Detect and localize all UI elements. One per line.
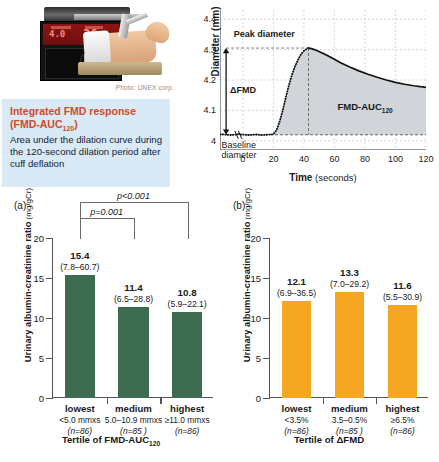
- annotation-peak-diameter: Peak diameter: [234, 29, 295, 39]
- bar-value-label: 15.4: [70, 250, 89, 261]
- y-tick-mark: [263, 238, 270, 239]
- figure-root: 4.036 Photo: UNEX corp. Integrated FMD r…: [0, 0, 439, 462]
- panel-b-ylabel-unit: (mg/gCr): [243, 188, 252, 222]
- bar: 11.4(6.5–28.8): [118, 307, 148, 398]
- significance-label: p=0.001: [90, 207, 123, 217]
- auc-label-pre: FMD-AUC: [337, 101, 381, 112]
- y-tick-mark: [263, 358, 270, 359]
- y-tick-label: 10: [33, 313, 44, 324]
- bar: 13.3(7.0–29.2): [335, 292, 365, 398]
- y-tick-label: 0: [39, 393, 44, 404]
- category-range: ≥6.5%: [365, 415, 439, 425]
- bar-value-label: 13.3: [340, 267, 359, 278]
- panel-a-plot-area: 0510152015.4(7.8–60.7)lowest<5.0 mmxs(n=…: [52, 238, 213, 398]
- significance-label: p<0.001: [117, 191, 150, 201]
- panel-a-y-axis-label: Urinary albumin-creatinine ratio (mg/gCr…: [23, 185, 33, 365]
- bar-ci-label: (6.9–36.5): [277, 288, 316, 298]
- info-title-sub: 120: [63, 125, 75, 132]
- line-chart-y-axis-label: Diameter (mm): [210, 0, 221, 87]
- panel-b-plot-area: 0510152012.1(6.9–36.5)lowest<3.5%(n=86)1…: [269, 238, 428, 398]
- bar-ci-label: (5.9–22.1): [168, 299, 207, 309]
- line-chart-y-tick: 4.2: [203, 75, 216, 85]
- info-title-line2-post: ): [74, 118, 78, 130]
- bar: 12.1(6.9–36.5): [282, 301, 312, 398]
- line-chart-x-tick: 80: [360, 154, 370, 164]
- y-tick-mark: [46, 358, 53, 359]
- panel-a-xtitle-pre: Tertile of FMD-AUC: [62, 434, 149, 445]
- y-tick-mark: [46, 238, 53, 239]
- y-tick-label: 5: [256, 353, 261, 364]
- x-category-label: highest≥11.0 mmxs(n=86): [149, 403, 225, 436]
- info-title-line1: Integrated FMD response: [10, 105, 136, 117]
- panel-a-ylabel-unit: (mg/gCr): [24, 188, 33, 222]
- line-chart-y-tick: 4.1: [203, 105, 216, 115]
- annotation-baseline-diameter: Baseline diameter: [222, 140, 257, 160]
- baseline-line1: Baseline: [222, 140, 257, 150]
- bar-ci-label: (7.8–60.7): [60, 262, 99, 272]
- y-tick-label: 5: [39, 353, 44, 364]
- bar-value-label: 10.8: [178, 287, 197, 298]
- panel-b-x-axis-title: Tertile of ΔFMD: [219, 434, 439, 445]
- significance-bracket: [80, 218, 136, 239]
- panel-a-x-axis-title: Tertile of FMD-AUC120: [0, 434, 222, 447]
- fmd-response-line-chart: Diameter (mm) 44.14.24.34.40204060801001…: [176, 2, 438, 194]
- arm-rest-icon: [78, 62, 162, 75]
- baseline-line2: diameter: [222, 150, 257, 160]
- y-tick-label: 15: [33, 273, 44, 284]
- device-photo: 4.036 Photo: UNEX corp.: [22, 4, 174, 96]
- line-chart-x-tick: 40: [299, 154, 309, 164]
- info-box-body: Area under the dilation curve during the…: [10, 134, 166, 171]
- line-chart-x-tick: 60: [329, 154, 339, 164]
- bar-value-label: 11.6: [393, 280, 412, 291]
- y-tick-mark: [46, 398, 53, 399]
- category-name: highest: [365, 403, 439, 414]
- y-tick-label: 10: [250, 313, 261, 324]
- bar: 15.4(7.8–60.7): [65, 275, 95, 398]
- y-tick-label: 20: [250, 233, 261, 244]
- bar-ci-label: (6.5–28.8): [114, 294, 153, 304]
- bar-ci-label: (5.5–30.9): [383, 292, 422, 302]
- y-tick-label: 15: [250, 273, 261, 284]
- line-chart-y-tick: 4.3: [203, 45, 216, 55]
- category-range: ≥11.0 mmxs: [149, 415, 225, 425]
- line-chart-x-tick: 100: [388, 154, 403, 164]
- y-tick-mark: [46, 278, 53, 279]
- x-axis-label-rest: (seconds): [312, 172, 356, 183]
- annotation-delta-fmd: ΔFMD: [230, 85, 256, 95]
- bar: 10.8(5.9–22.1): [172, 312, 202, 398]
- info-title-line2-pre: (FMD-AUC: [10, 118, 63, 130]
- y-tick-mark: [263, 398, 270, 399]
- info-box: Integrated FMD response (FMD-AUC120) Are…: [2, 99, 170, 187]
- photo-credit: Photo: UNEX corp.: [66, 84, 174, 91]
- y-tick-label: 20: [33, 233, 44, 244]
- panel-a: (a) Urinary albumin-creatinine ratio (mg…: [0, 196, 222, 462]
- x-axis-label-bold: Time: [289, 172, 312, 183]
- panel-b: (b) Urinary albumin-creatinine ratio (mg…: [219, 196, 439, 462]
- bar-value-label: 11.4: [124, 282, 143, 293]
- bar: 11.6(5.5–30.9): [388, 305, 418, 398]
- photo-image: 4.036: [22, 4, 174, 84]
- category-name: highest: [149, 403, 225, 414]
- bar-value-label: 12.1: [287, 276, 306, 287]
- y-tick-mark: [263, 318, 270, 319]
- bar-ci-label: (7.0–29.2): [330, 279, 369, 289]
- y-tick-mark: [263, 278, 270, 279]
- line-chart-x-tick: 120: [418, 154, 433, 164]
- y-tick-mark: [46, 318, 53, 319]
- line-chart-y-tick: 4.4: [203, 14, 216, 24]
- line-chart-x-tick: 20: [268, 154, 278, 164]
- auc-label-sub: 120: [382, 107, 393, 114]
- panel-a-ylabel-bold: Urinary albumin-creatinine ratio: [23, 222, 33, 363]
- info-box-title: Integrated FMD response (FMD-AUC120): [10, 105, 168, 135]
- line-chart-y-tick: 4: [211, 136, 216, 146]
- line-chart-x-axis-label: Time (seconds): [220, 172, 426, 183]
- panel-a-xtitle-sub: 120: [149, 440, 160, 447]
- y-tick-label: 0: [256, 393, 261, 404]
- annotation-fmd-auc: FMD-AUC120: [337, 101, 392, 114]
- x-category-label: highest≥6.5%(n=86): [365, 403, 439, 436]
